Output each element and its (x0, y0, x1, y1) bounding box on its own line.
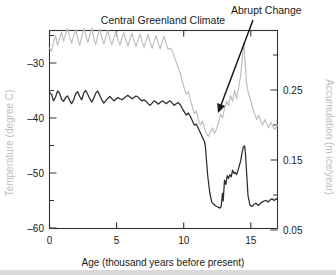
x-axis-title: Age (thousand years before present) (82, 257, 245, 268)
x-tick-label-2: 10 (178, 235, 190, 246)
right-axis-major-ticks (271, 90, 278, 230)
x-axis-top-ticks (50, 31, 251, 37)
right-tick-label-0: 0.25 (283, 85, 303, 96)
x-axis: 0 5 10 15 Age (thousand years before pre… (47, 31, 257, 269)
footer-band (0, 270, 336, 275)
temperature-series-line (50, 90, 278, 208)
x-tick-label-0: 0 (47, 235, 53, 246)
right-axis: 0.25 0.15 0.05 Accumulation (m ice/year) (271, 55, 336, 236)
right-tick-label-2: 0.05 (283, 225, 303, 236)
plot-frame (50, 31, 278, 229)
annotation-label: Abrupt Change (231, 4, 302, 16)
chart-svg: Central Greenland Climate –30 –40 –50 –6… (0, 0, 336, 275)
x-axis-ticks (50, 223, 251, 229)
x-tick-label-3: 15 (245, 235, 257, 246)
left-tick-label-2: –50 (27, 168, 44, 179)
chart-figure: Central Greenland Climate –30 –40 –50 –6… (0, 0, 336, 275)
right-axis-title: Accumulation (m ice/year) (324, 79, 335, 195)
x-tick-label-1: 5 (114, 235, 120, 246)
right-axis-minor-ticks (273, 55, 278, 195)
left-tick-label-0: –30 (27, 58, 44, 69)
right-tick-label-1: 0.15 (283, 155, 303, 166)
left-tick-label-3: –60 (27, 223, 44, 234)
left-axis: –30 –40 –50 –60 Temperature (degree C) (4, 36, 57, 235)
left-tick-label-1: –40 (27, 113, 44, 124)
chart-title: Central Greenland Climate (101, 14, 225, 26)
left-axis-title: Temperature (degree C) (4, 90, 15, 197)
